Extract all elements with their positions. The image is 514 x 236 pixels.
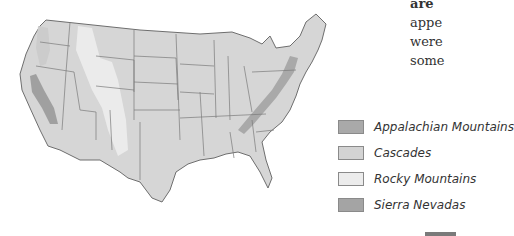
cascades-swatch xyxy=(338,146,364,160)
body-text-fragment: are appe were some xyxy=(410,0,445,70)
legend-item-sierra: Sierra Nevadas xyxy=(338,192,514,218)
legend-label: Sierra Nevadas xyxy=(374,198,465,212)
sierra-swatch xyxy=(338,198,364,212)
body-text-line: some xyxy=(410,51,445,70)
legend-item-appalachian: Appalachian Mountains xyxy=(338,114,514,140)
body-text-line: are xyxy=(410,0,445,13)
legend-item-cascades: Cascades xyxy=(338,140,514,166)
legend-label: Rocky Mountains xyxy=(374,172,476,186)
map-legend: Appalachian Mountains Cascades Rocky Mou… xyxy=(338,114,514,218)
legend-label: Cascades xyxy=(374,146,431,160)
legend-item-rocky: Rocky Mountains xyxy=(338,166,514,192)
decorative-bar xyxy=(425,232,456,236)
body-text-line: appe xyxy=(410,13,445,32)
appalachian-swatch xyxy=(338,120,364,134)
body-text-line: were xyxy=(410,32,445,51)
us-outline xyxy=(20,14,326,202)
rocky-swatch xyxy=(338,172,364,186)
legend-label: Appalachian Mountains xyxy=(374,120,514,134)
us-map xyxy=(0,0,340,236)
